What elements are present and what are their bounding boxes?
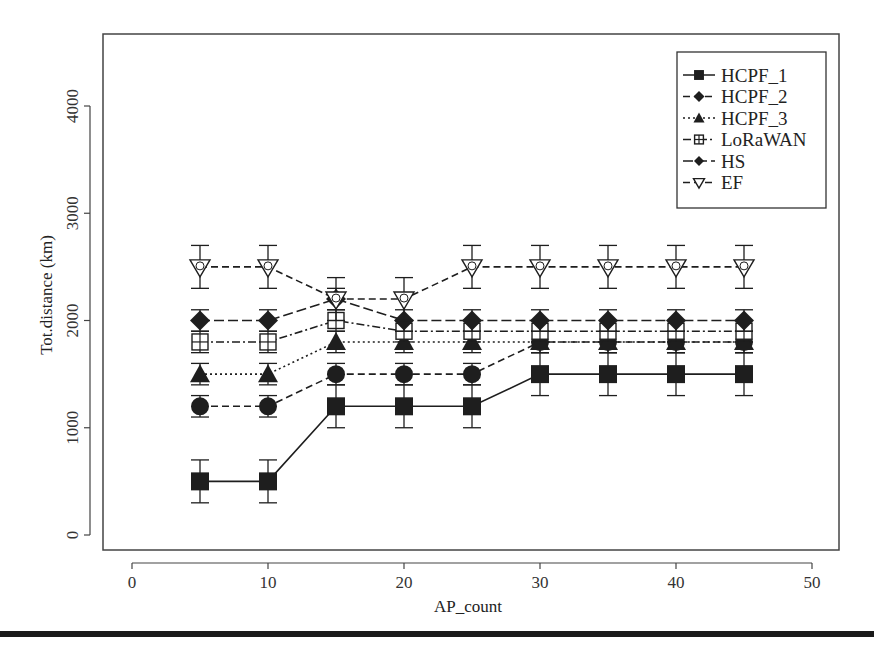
square-marker-icon — [531, 365, 549, 383]
triangle-up-marker-icon — [326, 332, 346, 350]
legend-label: HCPF_2 — [721, 86, 788, 107]
triangle-down-marker-icon — [190, 260, 210, 277]
x-tick-label: 30 — [532, 573, 549, 592]
square-marker-icon — [463, 397, 481, 415]
square-marker-icon — [735, 365, 753, 383]
y-axis: 01000200030004000 — [63, 89, 90, 539]
legend-label: LoRaWAN — [721, 129, 807, 150]
y-tick-label: 0 — [63, 531, 82, 540]
legend: HCPF_1HCPF_2HCPF_3LoRaWANHSEF — [677, 52, 826, 208]
page-bottom-rule — [0, 631, 874, 637]
triangle-down-marker-icon — [734, 260, 754, 277]
x-tick-label: 40 — [668, 573, 685, 592]
x-tick-label: 20 — [396, 573, 413, 592]
y-tick-label: 1000 — [63, 411, 82, 445]
legend-label: HS — [721, 151, 745, 172]
x-axis-title: AP_count — [434, 597, 502, 616]
triangle-up-marker-icon — [190, 364, 210, 382]
x-axis: 01020304050 — [128, 563, 821, 592]
x-tick-label: 50 — [804, 573, 821, 592]
y-tick-label: 3000 — [63, 196, 82, 230]
x-tick-label: 0 — [128, 573, 137, 592]
triangle-up-marker-icon — [258, 364, 278, 382]
line-chart: 01000200030004000 01020304050 HCPF_1HCPF… — [0, 0, 874, 653]
diamond-marker-icon — [190, 311, 210, 331]
square-plus-marker-icon — [695, 135, 704, 144]
square-plus-marker-icon — [192, 334, 208, 350]
triangle-down-marker-icon — [666, 260, 686, 277]
triangle-down-marker-icon — [598, 260, 618, 277]
square-marker-icon — [259, 472, 277, 490]
circle-marker-icon — [259, 397, 277, 415]
square-marker-icon — [694, 70, 704, 80]
y-tick-label: 4000 — [63, 89, 82, 123]
triangle-down-marker-icon — [530, 260, 550, 277]
y-axis-title: Tot.distance (km) — [37, 235, 56, 355]
circle-marker-icon — [463, 365, 481, 383]
series-layer — [190, 245, 754, 502]
triangle-down-marker-icon — [394, 292, 414, 309]
legend-label: EF — [721, 172, 743, 193]
square-marker-icon — [667, 365, 685, 383]
square-marker-icon — [395, 397, 413, 415]
square-plus-marker-icon — [260, 334, 276, 350]
circle-marker-icon — [191, 397, 209, 415]
triangle-down-marker-icon — [462, 260, 482, 277]
triangle-down-marker-icon — [258, 260, 278, 277]
circle-marker-icon — [395, 365, 413, 383]
square-marker-icon — [191, 472, 209, 490]
legend-label: HCPF_1 — [721, 65, 788, 86]
y-tick-label: 2000 — [63, 304, 82, 338]
diamond-marker-icon — [258, 311, 278, 331]
square-marker-icon — [599, 365, 617, 383]
legend-label: HCPF_3 — [721, 108, 788, 129]
x-tick-label: 10 — [260, 573, 277, 592]
square-marker-icon — [327, 397, 345, 415]
circle-marker-icon — [327, 365, 345, 383]
